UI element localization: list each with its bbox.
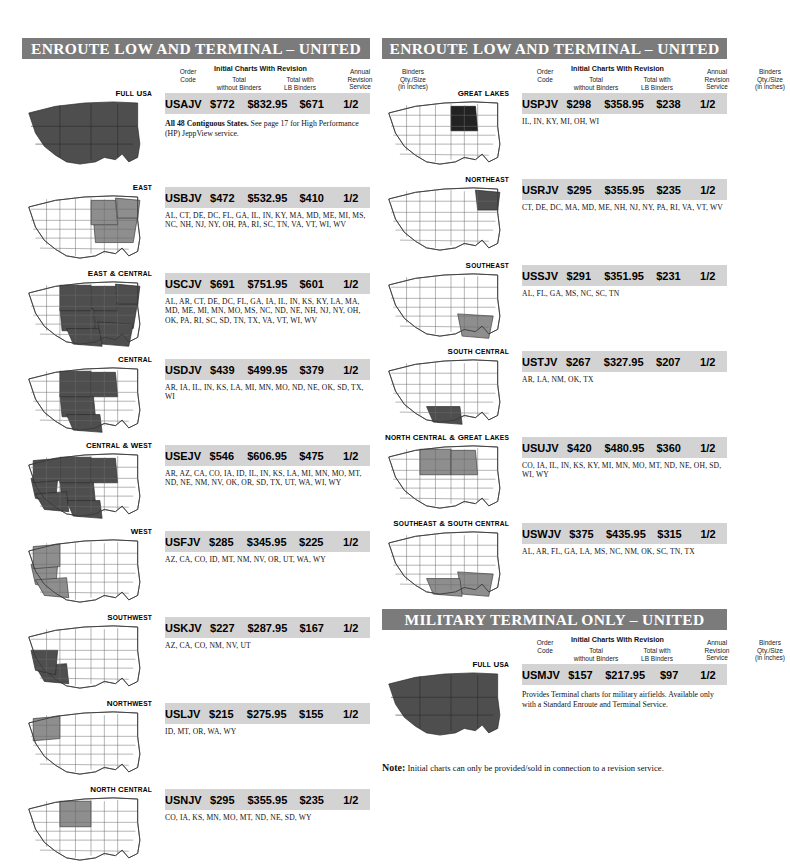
col-annual-revision: Annual Revision Service [690,639,744,662]
cell-total-lb-binders: $751.95 [243,278,292,290]
cell-order-code: USSJV [522,270,558,282]
section-header-enroute-left: ENROUTE LOW AND TERMINAL – UNITED STATES [22,38,370,59]
product-row: EASTUSBJV$472$532.95$4101/2AL, CT, DE, D… [22,187,370,259]
cell-binders: 1/2 [689,669,727,681]
product-row: SOUTHWESTUSKJV$227$287.95$1671/2AZ, CA, … [22,617,370,689]
region-label: SOUTH CENTRAL [448,347,509,356]
cell-total-lb-binders: $832.95 [243,98,292,110]
cell-binders: 1/2 [689,528,727,540]
region-label: NORTHEAST [465,175,509,184]
product-row: NORTHEASTUSRJV$295$355.95$2351/2CT, DE, … [382,179,727,251]
cell-total-lb-binders: $480.95 [600,442,649,454]
cell-total-lb-binders: $287.95 [243,622,292,634]
cell-binders: 1/2 [331,450,370,462]
region-label: NORTHWEST [107,699,152,708]
cell-total-without-binders: $267 [557,356,599,368]
cell-order-code: USNJV [165,794,202,806]
region-label: CENTRAL [118,355,152,364]
cell-total-lb-binders: $275.95 [242,708,291,720]
cell-binders: 1/2 [688,270,727,282]
cell-annual-revision: $97 [649,669,689,681]
price-row: USFJV$285$345.95$2251/2 [165,531,370,552]
region-label: EAST & CENTRAL [88,269,152,278]
state-list: CO, IA, KS, MN, MO, MT, ND, NE, SD, WY [165,810,370,822]
cell-annual-revision: $238 [648,98,688,110]
cell-annual-revision: $671 [292,98,332,110]
region-map-thumbnail [382,437,510,523]
state-list: AZ, CA, CO, NM, NV, UT [165,638,370,650]
cell-total-without-binders: $295 [202,794,243,806]
cell-order-code: USDJV [165,364,202,376]
cell-total-without-binders: $157 [560,669,601,681]
price-row: USLJV$215$275.95$1551/2 [165,703,370,724]
cell-binders: 1/2 [332,98,370,110]
price-row: USAJV$772$832.95$6711/2 [165,93,370,114]
cell-annual-revision: $167 [292,622,332,634]
cell-binders: 1/2 [332,364,370,376]
cell-order-code: USUJV [522,442,559,454]
state-list: ID, MT, OR, WA, WY [165,724,370,736]
region-map-thumbnail [382,664,510,750]
cell-total-lb-binders: $217.95 [601,669,649,681]
row-note: Provides Terminal charts for military ai… [522,685,727,710]
cell-annual-revision: $379 [292,364,332,376]
price-row: USEJV$546$606.95$4751/2 [165,445,370,466]
section-header-enroute-right: ENROUTE LOW AND TERMINAL – UNITED STATES [382,38,727,59]
section-header-military: MILITARY TERMINAL ONLY – UNITED STATES [382,609,727,630]
cell-total-lb-binders: $327.95 [599,356,648,368]
region-map-thumbnail [382,523,510,609]
cell-annual-revision: $360 [649,442,689,454]
col-total-without-binders: Total without Binders [211,68,267,91]
cell-total-without-binders: $215 [200,708,242,720]
cell-binders: 1/2 [332,794,370,806]
cell-order-code: USWJV [522,528,561,540]
cell-annual-revision: $410 [292,192,332,204]
region-map-thumbnail [22,359,150,445]
cell-order-code: USFJV [165,536,200,548]
region-map-thumbnail [22,445,150,531]
col-annual-revision: Annual Revision Service [333,68,387,91]
cell-binders: 1/2 [689,442,727,454]
region-label: GREAT LAKES [458,89,509,98]
cell-total-without-binders: $691 [202,278,243,290]
price-row: USRJV$295$355.95$2351/2 [522,179,727,200]
col-total-without-binders: Total without Binders [568,639,624,662]
region-map-thumbnail [22,789,150,865]
cell-order-code: USAJV [165,98,202,110]
price-row: USWJV$375$435.95$3151/2 [522,523,727,544]
col-total-lb-binders: Total with LB Binders [624,639,690,662]
price-row: USTJV$267$327.95$2071/2 [522,351,727,372]
cell-total-without-binders: $295 [559,184,600,196]
region-label: FULL USA [473,660,510,669]
cell-total-without-binders: $420 [559,442,600,454]
col-binders: Binders Qty./Size (in inches) [744,68,790,91]
cell-binders: 1/2 [332,192,370,204]
region-map-thumbnail [382,93,510,179]
product-row: CENTRAL & WESTUSEJV$546$606.95$4751/2AR,… [22,445,370,517]
region-label: SOUTHEAST [466,261,509,270]
state-list: AR, AZ, CA, CO, IA, ID, IL, IN, KS, LA, … [165,466,370,488]
cell-order-code: USLJV [165,708,200,720]
product-row: SOUTHEAST & SOUTH CENTRALUSWJV$375$435.9… [382,523,727,595]
region-label: CENTRAL & WEST [86,441,152,450]
cell-total-without-binders: $439 [202,364,243,376]
column-headers-right: Initial Charts With Revision Order Code … [382,59,727,93]
price-row: USKJV$227$287.95$1671/2 [165,617,370,638]
cell-binders: 1/2 [688,356,727,368]
cell-annual-revision: $207 [648,356,688,368]
cell-binders: 1/2 [331,708,370,720]
cell-order-code: USEJV [165,450,201,462]
product-row: FULL USAUSAJV$772$832.95$6711/2All 48 Co… [22,93,370,165]
region-map-thumbnail [22,703,150,789]
cell-total-without-binders: $285 [200,536,242,548]
region-map-thumbnail [382,265,510,351]
cell-order-code: USTJV [522,356,557,368]
cell-total-lb-binders: $355.95 [600,184,649,196]
footnote: Note: Initial charts can only be provide… [382,762,727,773]
region-map-thumbnail [22,93,150,179]
cell-total-lb-binders: $435.95 [602,528,650,540]
cell-total-lb-binders: $499.95 [243,364,292,376]
state-list: CO, IA, IL, IN, KS, KY, MI, MN, MO, MT, … [522,458,727,480]
region-label: NORTH CENTRAL [90,785,152,794]
